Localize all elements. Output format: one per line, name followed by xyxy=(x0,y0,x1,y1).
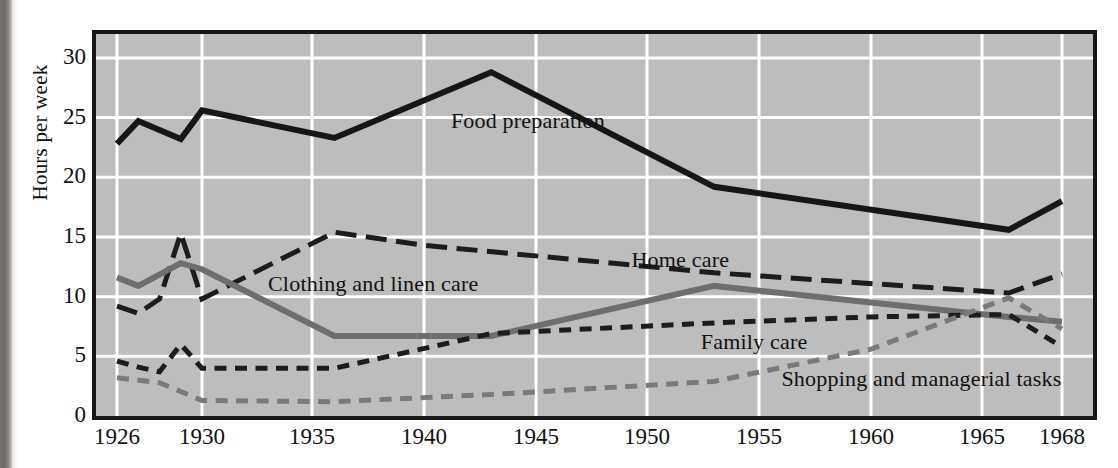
x-axis-tick-label: 1940 xyxy=(401,424,447,450)
plot-area xyxy=(92,30,1097,420)
y-axis-tick-label: 10 xyxy=(40,284,86,307)
series-line-food-preparation xyxy=(117,72,1062,230)
chart-figure: Hours per week 051015202530 192619301935… xyxy=(0,0,1118,468)
x-axis-tick-label: 1930 xyxy=(179,424,225,450)
y-axis-tick-label: 30 xyxy=(40,45,86,68)
series-line-family-care xyxy=(117,315,1062,372)
plot-svg xyxy=(96,34,1093,416)
y-axis-tick-label: 15 xyxy=(40,224,86,247)
y-axis-tick-group: 051015202530 xyxy=(38,0,86,468)
x-axis-tick-label: 1968 xyxy=(1039,424,1085,450)
series-annotation-label: Family care xyxy=(701,329,808,355)
y-axis-tick-label: 25 xyxy=(40,105,86,128)
series-line-clothing-and-linen-care xyxy=(117,263,1062,336)
x-axis-tick-label: 1950 xyxy=(624,424,670,450)
x-axis-tick-label: 1926 xyxy=(94,424,140,450)
x-axis-tick-label: 1935 xyxy=(289,424,335,450)
series-annotation-label: Food preparation xyxy=(451,108,605,134)
x-axis-tick-label: 1960 xyxy=(848,424,894,450)
y-axis-tick-label: 0 xyxy=(40,403,86,426)
series-annotation-label: Clothing and linen care xyxy=(268,271,479,297)
y-axis-tick-label: 5 xyxy=(40,343,86,366)
x-axis-tick-label: 1965 xyxy=(959,424,1005,450)
series-annotation-label: Home care xyxy=(631,247,729,273)
x-axis-tick-label: 1945 xyxy=(513,424,559,450)
series-annotation-label: Shopping and managerial tasks xyxy=(781,366,1061,392)
y-axis-tick-label: 20 xyxy=(40,164,86,187)
x-axis-tick-label: 1955 xyxy=(736,424,782,450)
